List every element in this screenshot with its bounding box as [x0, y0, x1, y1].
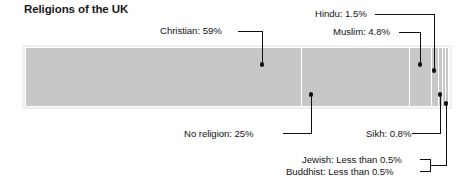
- label-christian: Christian: 59%: [160, 25, 222, 36]
- leader-jewish-buddhist-vertical: [446, 103, 447, 166]
- page-title: Religions of the UK: [24, 3, 128, 15]
- leader-buddhist-horizontal: [420, 171, 431, 172]
- marker-christian: [260, 62, 265, 67]
- leader-jewish-buddhist-horizontal: [430, 165, 447, 166]
- leader-sikh-horizontal: [412, 133, 441, 134]
- stacked-bar: [26, 48, 449, 106]
- bar-segment-christian[interactable]: [26, 48, 301, 106]
- leader-no-religion-vertical: [311, 94, 312, 134]
- leader-christian-horizontal: [238, 31, 263, 32]
- bar-segment-no-religion[interactable]: [301, 48, 409, 106]
- label-muslim: Muslim: 4.8%: [333, 26, 390, 37]
- label-jewish: Jewish: Less than 0.5%: [302, 154, 402, 165]
- leader-jewish-horizontal: [420, 159, 431, 160]
- leader-christian-vertical: [262, 31, 263, 64]
- leader-hindu-horizontal: [375, 14, 435, 15]
- leader-hindu-vertical: [434, 14, 435, 70]
- leader-muslim-vertical: [420, 32, 421, 64]
- leader-no-religion-horizontal: [283, 133, 312, 134]
- leader-sikh-vertical: [440, 94, 441, 134]
- label-no-religion: No religion: 25%: [184, 128, 254, 139]
- chart-canvas: Religions of the UK Christian: 59% Hindu…: [0, 0, 474, 196]
- label-buddhist: Buddhist: Less than 0.5%: [286, 166, 394, 177]
- label-hindu: Hindu: 1.5%: [315, 8, 367, 19]
- leader-muslim-horizontal: [399, 32, 421, 33]
- marker-muslim: [418, 62, 423, 67]
- bar-segment-buddhist[interactable]: [445, 48, 448, 106]
- label-sikh: Sikh: 0.8%: [366, 128, 411, 139]
- marker-hindu: [432, 68, 437, 73]
